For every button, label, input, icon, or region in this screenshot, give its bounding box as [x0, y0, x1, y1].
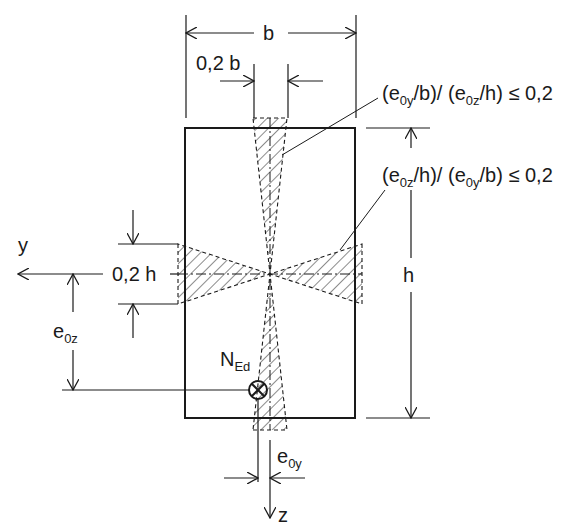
label-e0z: e0z	[53, 320, 78, 346]
leader-condition-1	[282, 98, 378, 155]
condition-2: (e0z/h)/ (e0y/b) ≤ 0,2	[382, 164, 553, 190]
label-z-axis: z	[278, 504, 288, 526]
leader-condition-2	[340, 190, 385, 250]
dim-e0z	[62, 274, 250, 390]
label-y-axis: y	[18, 234, 28, 256]
label-ned: NEd	[220, 348, 250, 374]
label-e0y: e0y	[277, 445, 302, 471]
eccentricity-diagram: b 0,2 b h 0,2 h y e0z NEd	[0, 0, 584, 532]
label-h: h	[403, 264, 414, 286]
label-b: b	[263, 22, 274, 44]
label-0-2h: 0,2 h	[112, 263, 156, 285]
label-0-2b: 0,2 b	[196, 52, 240, 74]
condition-1: (e0y/b)/ (e0z/h) ≤ 0,2	[382, 82, 553, 108]
